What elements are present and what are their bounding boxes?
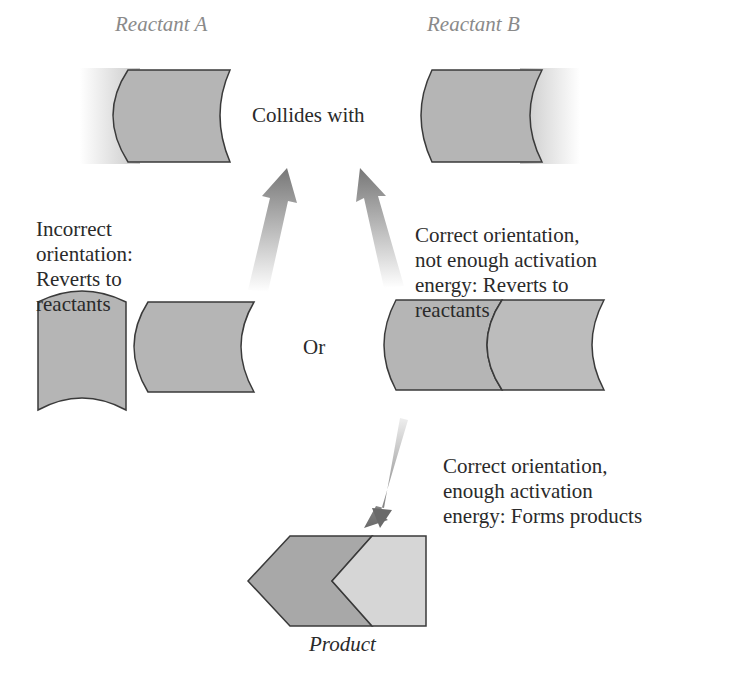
incorrect-orientation-text: Incorrectorientation:Reverts toreactants	[36, 167, 133, 342]
reactant-b-shape	[421, 70, 542, 162]
collides-with-text: Collides with	[252, 103, 365, 128]
or-text: Or	[303, 335, 325, 360]
collision-diagram	[0, 0, 738, 688]
arrow-up-left-icon	[248, 168, 297, 292]
incorrect-horizontal-shape	[134, 302, 254, 392]
arrow-up-right-icon	[356, 168, 404, 288]
arrow-down-icon	[364, 418, 408, 528]
not-enough-energy-text: Correct orientation,not enough activatio…	[415, 173, 597, 348]
reactant-a-label: Reactant A	[115, 12, 207, 36]
product-label: Product	[309, 632, 376, 656]
reactant-b-label: Reactant B	[427, 12, 520, 36]
reactant-a-shape	[113, 70, 230, 162]
forms-products-text: Correct orientation,enough activationene…	[443, 404, 642, 554]
